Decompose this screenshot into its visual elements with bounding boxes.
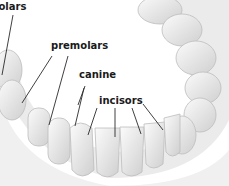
label-canine: canine [79, 70, 116, 80]
teeth-illustration [0, 0, 229, 186]
molars-left [0, 50, 26, 120]
canine [70, 123, 94, 176]
dental-arch-diagram: molars premolars canine incisors [0, 0, 229, 186]
label-incisors: incisors [99, 96, 143, 106]
label-premolars: premolars [51, 41, 108, 51]
label-molars: molars [0, 2, 26, 12]
